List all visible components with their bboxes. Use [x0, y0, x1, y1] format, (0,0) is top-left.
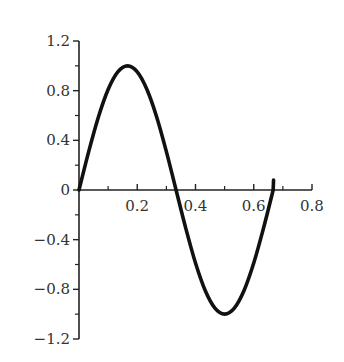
- x-tick-label: 0.2: [125, 197, 149, 215]
- x-axis: [79, 184, 312, 190]
- x-tick-label: 0.8: [300, 197, 324, 215]
- y-tick-label: 0.4: [46, 131, 70, 149]
- y-tick-labels: 1.20.80.40−0.4−0.8−1.2: [34, 32, 70, 348]
- y-tick-label: −1.2: [34, 330, 70, 348]
- y-tick-label: 0.8: [46, 82, 70, 100]
- x-tick-label: 0.6: [242, 197, 266, 215]
- y-tick-label: −0.4: [34, 231, 70, 249]
- line-chart: 1.20.80.40−0.4−0.8−1.2 0.20.40.60.8: [0, 0, 344, 362]
- y-tick-label: 1.2: [46, 32, 70, 50]
- y-tick-label: 0: [60, 181, 70, 199]
- x-tick-label: 0.4: [184, 197, 208, 215]
- x-tick-labels: 0.20.40.60.8: [125, 197, 324, 215]
- y-tick-label: −0.8: [34, 280, 70, 298]
